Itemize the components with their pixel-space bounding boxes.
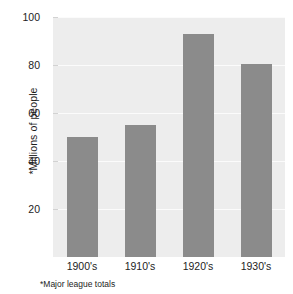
bar [183, 34, 214, 257]
y-axis-tick-label: 20 [28, 204, 40, 215]
y-axis-tick-mark [53, 161, 58, 162]
y-axis-tick-label: 80 [28, 60, 40, 71]
x-axis-tick-label: 1920's [168, 260, 228, 272]
chart-footnote: *Major league totals [40, 279, 115, 289]
x-axis-tick-label: 1900's [52, 260, 112, 272]
y-axis-tick-mark [53, 113, 58, 114]
bar [67, 137, 98, 257]
x-axis-tick-label: 1910's [110, 260, 170, 272]
y-axis-tick-mark [53, 65, 58, 66]
y-axis-tick-label: 40 [28, 156, 40, 167]
plot-area [53, 17, 285, 257]
bar [241, 64, 272, 257]
y-axis-tick-label: 60 [28, 108, 40, 119]
y-axis-tick-label: 100 [22, 12, 40, 23]
y-axis-tick-mark [53, 17, 58, 18]
y-axis-tick-mark [53, 209, 58, 210]
bar-chart-figure: *Millions of people 20406080100 1900's19… [0, 0, 293, 294]
y-axis-tick-labels: 20406080100 [0, 0, 48, 294]
x-axis-tick-label: 1930's [226, 260, 286, 272]
bar [125, 125, 156, 257]
x-axis-tick-labels: 1900's1910's1920's1930's [53, 260, 285, 276]
bars-group [53, 17, 285, 257]
